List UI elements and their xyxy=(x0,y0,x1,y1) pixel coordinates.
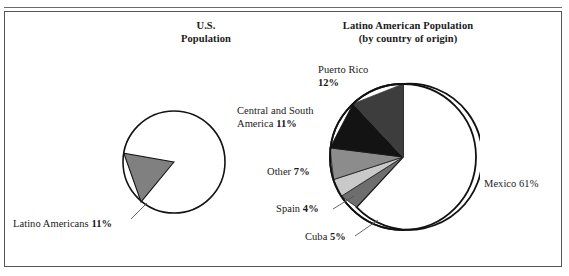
pie-label-puerto-rico: Puerto Rico 12% xyxy=(318,64,400,89)
pie-label-mexico: Mexico 61% xyxy=(484,178,564,191)
pie-label-central-south-america: Central and South America 11% xyxy=(237,105,330,130)
pie-label-puerto-rico-text: Puerto Rico xyxy=(318,64,368,75)
pie-label-puerto-rico-value: 12% xyxy=(318,77,339,88)
pie-label-other: Other 7% xyxy=(267,166,329,179)
pie-label-spain: Spain 4% xyxy=(276,203,338,216)
pie-label-latino-americans: Latino Americans 11% xyxy=(13,218,163,231)
pie-label-cuba-value: 5% xyxy=(330,231,346,242)
pie-label-mexico-text: Mexico xyxy=(484,178,519,189)
pie-chart-latino-american-population xyxy=(326,80,480,234)
figure-root: U.S. Population Latino American Populati… xyxy=(0,0,569,276)
chart-title-latino-american-population: Latino American Population (by country o… xyxy=(322,20,494,45)
pie-label-latino-americans-text: Latino Americans xyxy=(13,218,91,229)
top-rule xyxy=(4,7,562,8)
pie-label-other-value: 7% xyxy=(294,166,310,177)
pie-label-cuba: Cuba 5% xyxy=(305,231,367,244)
pie-label-spain-value: 4% xyxy=(303,203,319,214)
pie-label-spain-text: Spain xyxy=(276,203,303,214)
pie-label-other-text: Other xyxy=(267,166,294,177)
pie-label-central-south-america-value: 11% xyxy=(276,118,297,129)
chart-title-us-population: U.S. Population xyxy=(150,20,262,45)
pie-label-mexico-value: 61% xyxy=(519,178,538,189)
pie-label-cuba-text: Cuba xyxy=(305,231,330,242)
pie-label-latino-americans-value: 11% xyxy=(91,218,112,229)
pie-chart-us-population xyxy=(118,106,230,218)
